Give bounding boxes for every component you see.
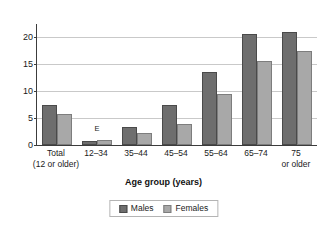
bar-females[interactable]: [137, 133, 152, 145]
bars-layer: E: [37, 24, 317, 145]
x-axis-tick-labels: Total(12 or older)12–3435–4445–5455–6465…: [36, 148, 317, 178]
bar-males[interactable]: [122, 127, 137, 145]
x-axis-label-line1: 55–64: [204, 148, 228, 158]
bar-chart: 05101520 E Total(12 or older)12–3435–444…: [0, 0, 327, 232]
bar-males[interactable]: [282, 32, 297, 145]
legend-swatch-females-icon: [164, 205, 172, 213]
legend-label-females: Females: [176, 204, 209, 213]
bar-females[interactable]: [257, 61, 272, 145]
y-axis-tick-mark: [34, 145, 37, 146]
bar-females[interactable]: [217, 94, 232, 145]
legend: Males Females: [109, 200, 218, 217]
bar-males[interactable]: [82, 141, 97, 145]
legend-swatch-males-icon: [119, 205, 127, 213]
y-axis-tick-label: 5: [28, 114, 33, 123]
x-axis-label-line2: or older: [282, 159, 311, 170]
bar-annotation-e: E: [94, 125, 99, 133]
bar-females[interactable]: [297, 51, 312, 145]
bar-group: [162, 24, 192, 145]
bar-females[interactable]: [57, 114, 72, 145]
bar-females[interactable]: [97, 140, 112, 145]
legend-item-females[interactable]: Females: [164, 204, 209, 213]
bar-group: [202, 24, 232, 145]
x-axis-label-line1: 35–44: [124, 148, 148, 158]
bar-females[interactable]: [177, 124, 192, 145]
x-axis-label: 75or older: [282, 148, 311, 169]
x-axis-label: Total(12 or older): [47, 148, 65, 159]
y-axis-tick-label: 0: [28, 141, 33, 150]
y-axis-tick-label: 10: [23, 87, 33, 96]
y-axis-tick-label: 20: [23, 33, 33, 42]
bar-males[interactable]: [242, 34, 257, 145]
x-axis-label: 45–54: [164, 148, 188, 159]
x-axis-label: 12–34: [84, 148, 108, 159]
y-axis-tick-label: 15: [23, 60, 33, 69]
x-axis-label: 55–64: [204, 148, 228, 159]
x-axis-label-line2: (12 or older): [33, 159, 79, 170]
bar-group: [122, 24, 152, 145]
x-axis-label-line1: Total: [47, 148, 65, 158]
bar-group: [282, 24, 312, 145]
bar-group: [42, 24, 72, 145]
bar-males[interactable]: [202, 72, 217, 145]
x-axis-label: 35–44: [124, 148, 148, 159]
x-axis-title: Age group (years): [0, 177, 327, 187]
x-axis-label: 65–74: [244, 148, 268, 159]
x-axis-label-line1: 12–34: [84, 148, 108, 158]
legend-label-males: Males: [131, 204, 154, 213]
x-axis-label-line1: 45–54: [164, 148, 188, 158]
bar-males[interactable]: [42, 105, 57, 145]
plot-area: 05101520 E: [36, 24, 317, 146]
bar-group: [242, 24, 272, 145]
x-axis-label-line1: 65–74: [244, 148, 268, 158]
x-axis-label-line1: 75: [291, 148, 300, 158]
bar-males[interactable]: [162, 105, 177, 145]
legend-item-males[interactable]: Males: [119, 204, 154, 213]
